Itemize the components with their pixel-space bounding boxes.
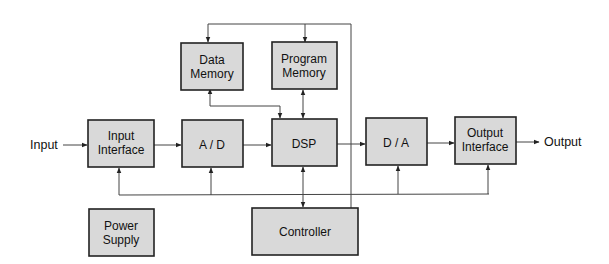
dsp-label: DSP — [292, 137, 317, 151]
control-bus — [119, 194, 489, 195]
block-output-interface: Output Interface — [455, 117, 516, 164]
controller-label: Controller — [279, 225, 331, 239]
block-dsp: DSP — [272, 119, 337, 166]
data-memory-label-line2: Memory — [190, 67, 233, 81]
program-memory-label-line1: Program — [281, 52, 327, 66]
da-label: D / A — [383, 136, 409, 150]
block-input-interface: Input Interface — [88, 120, 154, 167]
input-interface-label-line1: Input — [108, 129, 135, 143]
power-supply-label-line2: Supply — [103, 233, 140, 247]
data-memory-dsp-link — [210, 89, 280, 118]
power-supply-label-line1: Power — [104, 219, 138, 233]
block-data-memory: Data Memory — [181, 43, 243, 90]
block-controller: Controller — [252, 208, 358, 255]
output-label: Output — [544, 135, 582, 149]
output-interface-label-line1: Output — [467, 126, 504, 140]
dsp-block-diagram: Data Memory Program Memory Input Interfa… — [0, 0, 609, 264]
program-memory-label-line2: Memory — [282, 66, 325, 80]
input-label: Input — [30, 138, 58, 152]
block-ad: A / D — [182, 120, 243, 167]
block-power-supply: Power Supply — [89, 209, 154, 256]
block-program-memory: Program Memory — [272, 42, 337, 89]
input-interface-label-line2: Interface — [98, 143, 145, 157]
output-interface-label-line2: Interface — [462, 140, 509, 154]
data-memory-label-line1: Data — [199, 53, 225, 67]
block-da: D / A — [366, 118, 427, 165]
ad-label: A / D — [199, 138, 225, 152]
